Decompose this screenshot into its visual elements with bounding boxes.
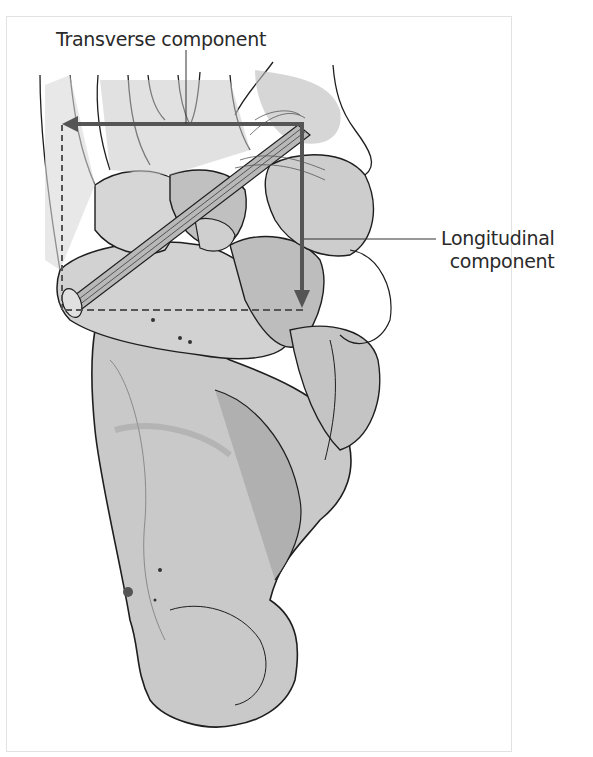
foot-bones-illustration: [0, 0, 593, 757]
longitudinal-label-line2: component: [441, 250, 554, 273]
longitudinal-label-line1: Longitudinal: [441, 227, 554, 250]
transverse-component-label: Transverse component: [56, 28, 266, 51]
longitudinal-component-label: Longitudinal component: [441, 227, 554, 273]
